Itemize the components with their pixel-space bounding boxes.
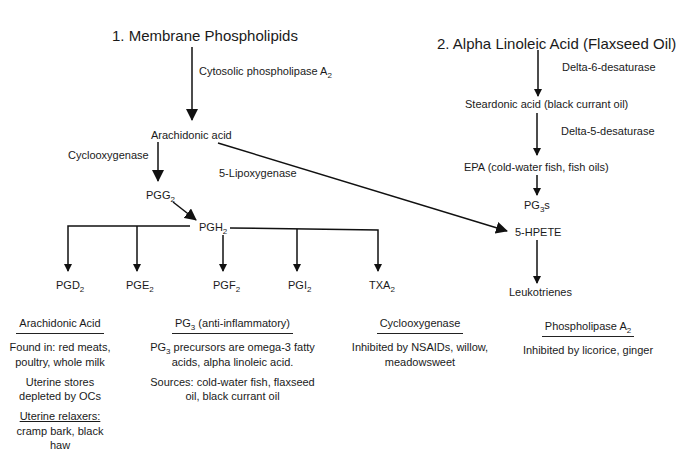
note-uterine-relaxers-heading: Uterine relaxers:: [5, 409, 115, 423]
enzyme-5-lipoxygenase: 5-Lipoxygenase: [219, 168, 297, 179]
membrane-phospholipids-title: 1. Membrane Phospholipids: [112, 28, 298, 43]
enzyme-delta-6-desaturase: Delta-6-desaturase: [562, 62, 656, 73]
node-epa: EPA (cold-water fish, fish oils): [464, 162, 609, 173]
note-found-in: Found in: red meats, poultry, whole milk: [5, 340, 115, 369]
note-phospholipase-text: Inhibited by licorice, ginger: [518, 343, 658, 357]
enzyme-cyclooxygenase: Cyclooxygenase: [68, 150, 149, 161]
node-steardonic-acid: Steardonic acid (black currant oil): [465, 99, 628, 110]
note-phospholipase: Phospholipase A2 Inhibited by licorice, …: [518, 319, 658, 358]
note-cyclooxygenase: Cyclooxygenase Inhibited by NSAIDs, will…: [350, 316, 490, 369]
node-arachidonic-acid: Arachidonic acid: [151, 130, 232, 141]
note-pg3: PG3 (anti-inflammatory) PG3 precursors a…: [150, 316, 315, 409]
note-cyclooxygenase-text: Inhibited by NSAIDs, willow, meadowsweet: [350, 340, 490, 369]
enzyme-cytosolic-phospholipase: Cytosolic phospholipase A2: [199, 66, 332, 77]
note-heading: PG3 (anti-inflammatory): [172, 316, 293, 334]
product-pge2: PGE2: [126, 280, 154, 291]
note-heading: Phospholipase A2: [542, 319, 634, 337]
node-5-hpete: 5-HPETE: [515, 227, 561, 238]
note-uterine-stores: Uterine stores depleted by OCs: [5, 375, 115, 404]
node-pgh2: PGH2: [199, 222, 227, 233]
note-heading: Cyclooxygenase: [377, 316, 464, 334]
enzyme-delta-5-desaturase: Delta-5-desaturase: [561, 126, 655, 137]
product-txa2: TXA2: [369, 280, 395, 291]
note-heading: Arachidonic Acid: [16, 316, 103, 334]
product-pgd2: PGD2: [56, 280, 84, 291]
product-pgf2: PGF2: [213, 280, 240, 291]
node-leukotrienes: Leukotrienes: [509, 287, 572, 298]
note-uterine-relaxers: cramp bark, black haw: [5, 424, 115, 453]
node-pg3s: PG3s: [524, 200, 550, 211]
note-pg3-sources: Sources: cold-water fish, flaxseed oil, …: [150, 375, 315, 404]
note-arachidonic-acid: Arachidonic Acid Found in: red meats, po…: [5, 316, 115, 452]
note-pg3-precursors: PG3 precursors are omega-3 fatty acids, …: [150, 340, 315, 369]
alpha-linoleic-acid-title: 2. Alpha Linoleic Acid (Flaxseed Oil): [437, 36, 676, 51]
product-pgi2: PGI2: [288, 280, 311, 291]
node-pgg2: PGG2: [146, 190, 175, 201]
